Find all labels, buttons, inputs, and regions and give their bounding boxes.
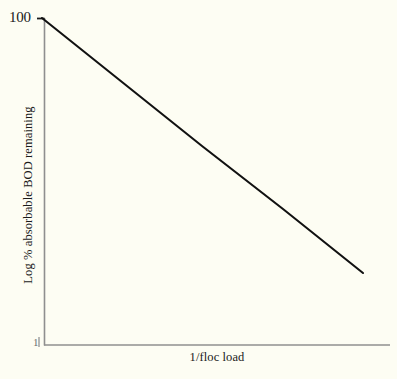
plot-canvas — [0, 0, 397, 379]
data-series-line — [42, 18, 363, 273]
chart-figure: 100 1 Log % absorbable BOD remaining 1/f… — [0, 0, 397, 379]
y-axis-title: Log % absorbable BOD remaining — [21, 106, 35, 283]
y-axis-tick-label-100: 100 — [9, 10, 31, 25]
y-axis-tick-label-1: 1 — [33, 337, 39, 348]
x-axis-title: 1/floc load — [44, 350, 390, 365]
y-axis-title-container: Log % absorbable BOD remaining — [18, 95, 38, 295]
